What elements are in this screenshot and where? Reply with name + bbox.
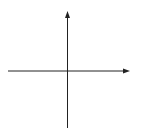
coordinate-plane <box>0 0 146 134</box>
x-axis-arrow-icon <box>123 69 130 74</box>
y-axis-arrow-icon <box>65 11 70 18</box>
